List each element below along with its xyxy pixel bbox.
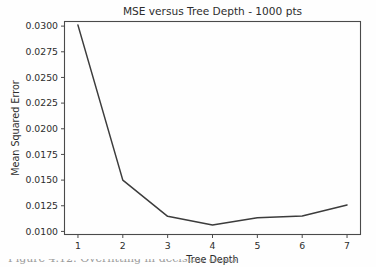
y-tick-label: 0.0300 bbox=[25, 20, 58, 31]
chart-title: MSE versus Tree Depth - 1000 pts bbox=[123, 5, 302, 17]
x-tick-label: 7 bbox=[344, 240, 350, 251]
figure-caption-clipped: Figure 4.12: Overfitting in decision tre… bbox=[0, 259, 376, 267]
x-tick-label: 3 bbox=[165, 240, 171, 251]
y-tick-label: 0.0150 bbox=[25, 174, 58, 185]
y-tick-label: 0.0250 bbox=[25, 72, 58, 83]
figure-canvas: 0.01000.01250.01500.01750.02000.02250.02… bbox=[0, 0, 376, 267]
x-tick-label: 1 bbox=[75, 240, 81, 251]
mse-versus-tree-depth-chart: 0.01000.01250.01500.01750.02000.02250.02… bbox=[0, 0, 376, 267]
y-tick-label: 0.0100 bbox=[25, 226, 58, 237]
y-axis-label: Mean Squared Error bbox=[10, 80, 21, 176]
figure-caption-text: Figure 4.12: Overfitting in decision tre… bbox=[8, 259, 237, 265]
x-tick-label: 6 bbox=[299, 240, 305, 251]
plot-frame bbox=[65, 22, 361, 235]
mse-series-line bbox=[78, 25, 347, 225]
x-tick-label: 2 bbox=[120, 240, 126, 251]
y-tick-label: 0.0225 bbox=[25, 97, 58, 108]
y-tick-label: 0.0200 bbox=[25, 123, 58, 134]
x-tick-label: 5 bbox=[254, 240, 260, 251]
x-tick-label: 4 bbox=[210, 240, 216, 251]
y-tick-label: 0.0275 bbox=[25, 46, 58, 57]
y-tick-label: 0.0175 bbox=[25, 149, 58, 160]
y-tick-label: 0.0125 bbox=[25, 200, 58, 211]
